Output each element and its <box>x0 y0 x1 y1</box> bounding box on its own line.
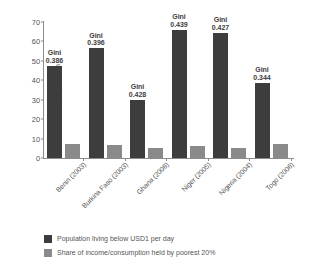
legend-swatch-series-2 <box>44 249 52 257</box>
gini-value: 0.386 <box>46 57 64 64</box>
bar-series-2[interactable] <box>273 144 288 158</box>
x-axis-tick-mark <box>83 158 84 161</box>
gini-annotation: Gini0.344 <box>253 66 271 82</box>
y-axis-tick-label: 40 <box>32 76 40 85</box>
x-axis-tick-mark <box>166 158 167 161</box>
gini-value: 0.427 <box>212 24 230 31</box>
bar-series-1[interactable]: Gini0.439 <box>172 30 187 158</box>
gini-annotation: Gini0.386 <box>46 49 64 65</box>
gini-title: Gini <box>89 32 103 39</box>
gini-annotation: Gini0.428 <box>129 83 147 99</box>
gini-value: 0.428 <box>129 91 147 98</box>
gini-value: 0.344 <box>253 74 271 81</box>
bar-series-1[interactable]: Gini0.386 <box>47 66 62 158</box>
bar-group: Gini0.439 <box>169 22 211 158</box>
bar-series-1[interactable]: Gini0.344 <box>255 83 270 158</box>
y-axis-tick-label: 30 <box>32 95 40 104</box>
gini-title: Gini <box>214 16 228 23</box>
bar-series-2[interactable] <box>65 144 80 158</box>
gini-annotation: Gini0.427 <box>212 16 230 32</box>
y-axis-tick-label: 20 <box>32 115 40 124</box>
bar-group: Gini0.428 <box>127 22 169 158</box>
legend-label-series-2: Share of income/consumption held by poor… <box>57 249 215 256</box>
x-axis-line <box>43 158 294 159</box>
gini-value: 0.439 <box>170 21 188 28</box>
plot-area: % of population 010203040506070 Gini0.38… <box>44 22 293 158</box>
y-axis-tick-label: 50 <box>32 56 40 65</box>
x-axis-label: Niger (2005) <box>180 161 212 193</box>
bar-series-1[interactable]: Gini0.427 <box>213 33 228 158</box>
bar-series-2[interactable] <box>190 146 205 158</box>
x-axis-label: Nigeria (2004) <box>218 161 253 196</box>
y-axis-tick-label: 70 <box>32 18 40 27</box>
x-axis-label: Burkina Faso (2003) <box>80 161 128 209</box>
bar-group: Gini0.386 <box>44 22 86 158</box>
bar-series-2[interactable] <box>107 145 122 158</box>
gini-title: Gini <box>172 13 186 20</box>
bar-series-2[interactable] <box>148 148 163 158</box>
x-axis-tick-mark <box>291 158 292 161</box>
bar-group: Gini0.344 <box>252 22 294 158</box>
gini-title: Gini <box>48 49 62 56</box>
bar-series-1[interactable]: Gini0.428 <box>130 100 145 158</box>
y-axis-tick-label: 10 <box>32 134 40 143</box>
bar-series-1[interactable]: Gini0.396 <box>89 48 104 158</box>
x-axis-label: Ghana (2006) <box>135 161 170 196</box>
gini-value: 0.396 <box>87 39 105 46</box>
bar-series-2[interactable] <box>231 148 246 158</box>
bar-chart: % of population 010203040506070 Gini0.38… <box>0 0 309 276</box>
legend: Population living below USD1 per day Sha… <box>44 233 215 261</box>
x-axis-label: Togo (2006) <box>264 161 295 192</box>
gini-annotation: Gini0.396 <box>87 32 105 48</box>
y-axis-tick-label: 60 <box>32 37 40 46</box>
gini-title: Gini <box>131 83 145 90</box>
bar-group: Gini0.396 <box>86 22 128 158</box>
legend-swatch-series-1 <box>44 235 52 243</box>
legend-label-series-1: Population living below USD1 per day <box>57 235 174 242</box>
gini-title: Gini <box>255 66 269 73</box>
legend-item: Share of income/consumption held by poor… <box>44 247 215 258</box>
gini-annotation: Gini0.439 <box>170 13 188 29</box>
bar-group: Gini0.427 <box>210 22 252 158</box>
x-axis-tick-mark <box>249 158 250 161</box>
y-axis-tick-label: 0 <box>36 154 40 163</box>
legend-item: Population living below USD1 per day <box>44 233 215 244</box>
x-axis-label: Benin (2003) <box>55 161 87 193</box>
